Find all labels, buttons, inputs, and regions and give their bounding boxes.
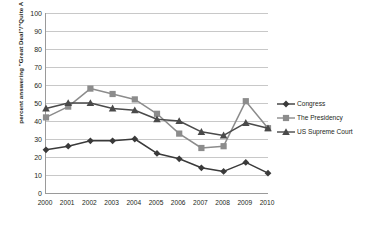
y-axis-tick-labels: 0102030405060708090100 (14, 13, 42, 193)
data-point-marker (87, 86, 93, 92)
chart-legend: CongressThe PresidencyUS Supreme Court (276, 97, 372, 139)
y-axis-tick: 10 (16, 172, 42, 179)
square-marker-icon (276, 113, 296, 123)
legend-item-us-supreme-court[interactable]: US Supreme Court (276, 125, 372, 139)
diamond-marker-icon (276, 99, 296, 109)
y-axis-tick: 100 (16, 10, 42, 17)
triangle-marker-icon (276, 127, 296, 137)
data-series-layer (46, 13, 268, 193)
legend-label: US Supreme Court (296, 128, 353, 136)
chart-container: percent answering "Great Deal"/"Quite A … (0, 0, 372, 227)
data-point-marker (283, 115, 289, 121)
data-point-marker (198, 128, 206, 135)
data-point-marker (243, 98, 249, 104)
legend-label: Congress (296, 100, 325, 108)
data-point-marker (220, 168, 227, 175)
data-point-marker (221, 143, 227, 149)
data-point-marker (198, 164, 205, 171)
plot-area (45, 13, 268, 194)
y-axis-tick: 40 (16, 118, 42, 125)
data-point-marker (110, 91, 116, 97)
y-axis-tick: 30 (16, 136, 42, 143)
data-point-marker (109, 137, 116, 144)
data-point-marker (87, 137, 94, 144)
series-congress (43, 136, 272, 177)
y-axis-tick: 90 (16, 28, 42, 35)
y-axis-tick: 50 (16, 100, 42, 107)
y-axis-tick: 60 (16, 82, 42, 89)
data-point-marker (65, 143, 72, 150)
legend-item-the-presidency[interactable]: The Presidency (276, 111, 372, 125)
x-axis-tick-labels: 2000200120022003200420052006200720082009… (45, 199, 267, 211)
y-axis-tick: 20 (16, 154, 42, 161)
legend-label: The Presidency (296, 114, 343, 122)
data-point-marker (283, 101, 290, 108)
data-point-marker (43, 146, 50, 153)
data-point-marker (242, 119, 250, 126)
x-axis-tick: 2010 (252, 199, 282, 207)
data-point-marker (176, 155, 183, 162)
data-point-marker (176, 131, 182, 137)
y-axis-tick: 70 (16, 64, 42, 71)
data-point-marker (265, 170, 272, 177)
legend-item-congress[interactable]: Congress (276, 97, 372, 111)
data-point-marker (198, 145, 204, 151)
data-point-marker (132, 96, 138, 102)
y-axis-tick: 80 (16, 46, 42, 53)
data-point-marker (242, 159, 249, 166)
y-axis-tick: 0 (16, 190, 42, 197)
data-point-marker (43, 114, 49, 120)
